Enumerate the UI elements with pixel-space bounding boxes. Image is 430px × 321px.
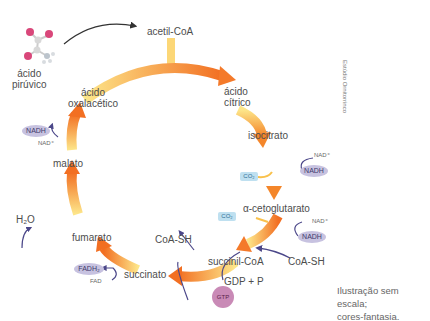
nad-isocitrato: NAD⁺ [314,152,330,159]
co2-badge-cetoglutarato: CO₂ [218,212,236,221]
label-fumarato: fumarato [72,232,111,243]
label-succinato: succinato [124,269,166,280]
oxalacetico-line1: ácido [68,87,118,98]
fadh2-badge: FADH₂ [74,263,104,275]
label-piruvico: ácido pirúvico [12,68,46,90]
pyruvate-molecule [24,28,55,64]
nad-malato: NAD⁺ [38,140,54,147]
gtp-badge: GTP [212,286,234,308]
label-h2o: H₂O [16,214,35,225]
note-line2: cores-fantasia. [337,310,430,321]
co2-badge-isocitrato: CO₂ [240,172,258,181]
label-oxalacetico: ácido oxalacético [68,87,118,109]
nadh-badge-cetoglutarato: NADH [298,231,326,243]
pyruvate-arrow [64,24,135,44]
label-cetoglutarato: α-cetoglutarato [243,203,310,214]
citrico-line2: cítrico [224,97,251,108]
illustration-note: Ilustração sem escala; cores-fantasia. [337,284,430,321]
note-line1: Ilustração sem escala; [337,284,430,310]
fad-label: FAD [90,278,102,285]
label-gdp-p: GDP + P [224,276,264,287]
label-coash-in: CoA-SH [288,256,325,267]
label-isocitrato: isocitrato [248,130,288,141]
label-malato: malato [53,158,83,169]
piruvico-line1: ácido [12,68,46,79]
nadh-badge-isocitrato: NADH [300,165,328,177]
nadh-badge-malato: NADH [22,125,50,137]
label-citrico: ácido cítrico [224,86,251,108]
label-acetil-coa: acetil-CoA [147,26,193,37]
piruvico-line2: pirúvico [12,79,46,90]
credit-text: Estúdio Ornitorrinco [342,60,348,113]
oxalacetico-line2: oxalacético [68,98,118,109]
nad-cetoglutarato: NAD⁺ [312,218,328,225]
label-coash-out: CoA-SH [155,234,192,245]
label-succinil-coa: succinil-CoA [208,256,264,267]
citrico-line1: ácido [224,86,251,97]
